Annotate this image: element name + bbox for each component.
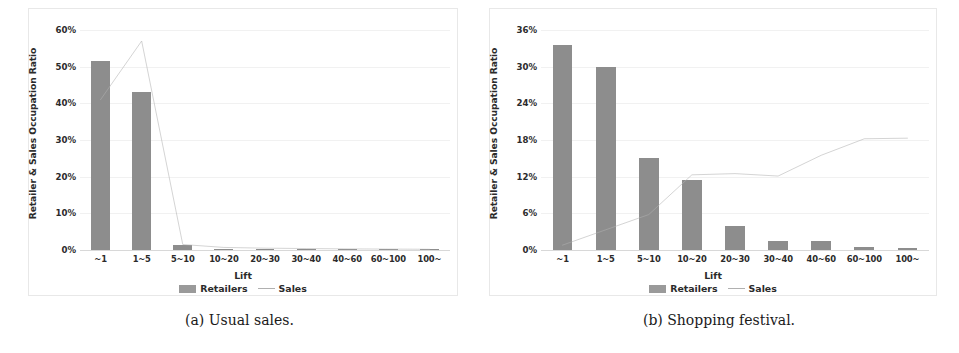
caption-b: (b) Shopping festival. — [479, 312, 959, 328]
x-tick-label: 5~10 — [627, 254, 670, 264]
y-tick-label: 40% — [55, 98, 76, 108]
bar-30~40 — [768, 241, 788, 250]
bar-slot — [843, 30, 886, 250]
bar-swatch-icon — [179, 285, 196, 293]
line-swatch-icon — [258, 288, 275, 289]
chart-a-legend: Retailers Sales — [28, 283, 458, 294]
chart-b-y-axis-title: Retailer & Sales Occupation Ratio — [485, 8, 503, 258]
bar-slot — [584, 30, 627, 250]
bar-slot — [713, 30, 756, 250]
chart-b-x-axis-title: Lift — [489, 270, 937, 281]
x-tick-label: 1~5 — [121, 254, 162, 264]
chart-b-legend: Retailers Sales — [489, 283, 937, 294]
bar-~1 — [91, 61, 110, 250]
chart-a-bars — [80, 30, 450, 250]
x-tick-label: 60~100 — [843, 254, 886, 264]
subfigure-a: Retailer & Sales Occupation Ratio 0%10%2… — [0, 0, 479, 353]
chart-a-y-ticks: 0%10%20%30%40%50%60% — [42, 30, 76, 250]
x-tick-label: 30~40 — [286, 254, 327, 264]
chart-a: Retailer & Sales Occupation Ratio 0%10%2… — [28, 8, 458, 296]
bar-1~5 — [596, 67, 616, 250]
y-tick-label: 18% — [516, 135, 537, 145]
chart-b-legend-label-sales: Sales — [749, 283, 777, 294]
bar-20~30 — [256, 249, 275, 250]
bar-5~10 — [639, 158, 659, 250]
chart-b-plot-area — [541, 30, 929, 250]
x-tick-label: 10~20 — [670, 254, 713, 264]
bar-~1 — [553, 45, 573, 250]
chart-b: Retailer & Sales Occupation Ratio 0%6%12… — [489, 8, 937, 296]
bar-slot — [886, 30, 929, 250]
bar-slot — [121, 30, 162, 250]
y-tick-label: 0% — [61, 245, 76, 255]
chart-a-y-axis-title: Retailer & Sales Occupation Ratio — [24, 8, 42, 258]
bar-swatch-icon — [649, 285, 666, 293]
bar-5~10 — [173, 245, 192, 251]
bar-60~100 — [379, 249, 398, 250]
x-tick-label: 100~ — [409, 254, 450, 264]
x-tick-label: 60~100 — [368, 254, 409, 264]
bar-slot — [368, 30, 409, 250]
chart-b-legend-item-retailers: Retailers — [649, 283, 717, 294]
bar-slot — [627, 30, 670, 250]
bar-slot — [162, 30, 203, 250]
x-tick-label: 1~5 — [584, 254, 627, 264]
bar-20~30 — [725, 226, 745, 250]
y-tick-label: 36% — [516, 25, 537, 35]
y-tick-label: 30% — [55, 135, 76, 145]
bar-1~5 — [132, 92, 151, 250]
chart-a-legend-label-retailers: Retailers — [200, 283, 247, 294]
line-swatch-icon — [728, 288, 745, 289]
chart-a-legend-item-sales: Sales — [258, 283, 307, 294]
bar-slot — [409, 30, 450, 250]
chart-a-y-axis-title-text: Retailer & Sales Occupation Ratio — [28, 47, 39, 219]
gridline — [80, 250, 450, 251]
bar-40~60 — [811, 241, 831, 250]
x-tick-label: ~1 — [541, 254, 584, 264]
figure-row: Retailer & Sales Occupation Ratio 0%10%2… — [0, 0, 959, 353]
bar-100~ — [420, 249, 439, 250]
y-tick-label: 20% — [55, 172, 76, 182]
y-tick-label: 12% — [516, 172, 537, 182]
chart-a-legend-item-retailers: Retailers — [179, 283, 247, 294]
x-tick-label: 40~60 — [327, 254, 368, 264]
x-tick-label: 30~40 — [757, 254, 800, 264]
chart-a-plot-area — [80, 30, 450, 250]
chart-a-x-ticks: ~11~55~1010~2020~3030~4040~6060~100100~ — [80, 254, 450, 264]
x-tick-label: 5~10 — [162, 254, 203, 264]
bar-10~20 — [214, 249, 233, 250]
y-tick-label: 24% — [516, 98, 537, 108]
gridline — [541, 250, 929, 251]
bar-slot — [80, 30, 121, 250]
y-tick-label: 50% — [55, 62, 76, 72]
chart-b-y-axis-title-text: Retailer & Sales Occupation Ratio — [489, 47, 500, 219]
y-tick-label: 6% — [522, 208, 537, 218]
chart-b-legend-label-retailers: Retailers — [670, 283, 717, 294]
bar-60~100 — [854, 247, 874, 250]
bar-30~40 — [297, 249, 316, 250]
x-tick-label: ~1 — [80, 254, 121, 264]
bar-slot — [244, 30, 285, 250]
bar-slot — [800, 30, 843, 250]
chart-b-x-ticks: ~11~55~1010~2020~3030~4040~6060~100100~ — [541, 254, 929, 264]
y-tick-label: 0% — [522, 245, 537, 255]
x-tick-label: 100~ — [886, 254, 929, 264]
bar-slot — [286, 30, 327, 250]
bar-40~60 — [338, 249, 357, 250]
x-tick-label: 20~30 — [244, 254, 285, 264]
x-tick-label: 10~20 — [203, 254, 244, 264]
x-tick-label: 20~30 — [713, 254, 756, 264]
subfigure-b: Retailer & Sales Occupation Ratio 0%6%12… — [479, 0, 959, 353]
bar-slot — [327, 30, 368, 250]
bar-slot — [203, 30, 244, 250]
caption-a: (a) Usual sales. — [0, 312, 479, 328]
chart-a-legend-label-sales: Sales — [279, 283, 307, 294]
chart-b-y-ticks: 0%6%12%18%24%30%36% — [503, 30, 537, 250]
chart-b-legend-item-sales: Sales — [728, 283, 777, 294]
bar-slot — [757, 30, 800, 250]
y-tick-label: 60% — [55, 25, 76, 35]
bar-slot — [541, 30, 584, 250]
bar-slot — [670, 30, 713, 250]
chart-a-x-axis-title: Lift — [28, 270, 458, 281]
y-tick-label: 30% — [516, 62, 537, 72]
